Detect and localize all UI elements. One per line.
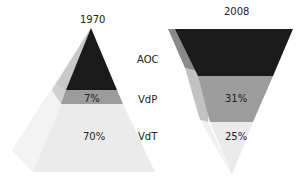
legend-vdt: VdT: [138, 131, 157, 143]
label-1970-vdp: 7%: [84, 93, 100, 105]
legend-vdp: VdP: [138, 94, 157, 106]
pyramid-chart: 1970 2008 AOC VdP VdT 7% 70% 31% 25%: [0, 0, 304, 184]
label-1970-vdt: 70%: [83, 131, 105, 143]
label-2008-vdp: 31%: [225, 93, 247, 105]
label-2008-vdt: 25%: [225, 131, 247, 143]
title-2008: 2008: [224, 6, 249, 18]
title-1970: 1970: [80, 14, 105, 26]
pyramid-graphics: [0, 0, 304, 184]
segment-vdt-2008: [210, 122, 253, 175]
legend-aoc: AOC: [137, 54, 159, 66]
